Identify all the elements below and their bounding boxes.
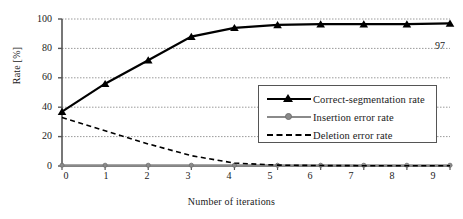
y-tick-100: 100 [22,14,52,24]
legend-item-correct-segmentation-rate: Correct-segmentation rate [259,90,436,108]
x-tick-6: 6 [300,170,320,181]
y-tick-20: 20 [22,131,52,141]
chart-figure: Rate [%] 100 80 60 40 20 0 0 1 2 3 4 5 6… [0,0,463,219]
x-tick-8: 8 [382,170,402,181]
x-tick-7: 7 [341,170,361,181]
legend-item-deletion-error-rate: Deletion error rate [259,126,436,144]
legend-key-dashed-line-icon [265,128,313,142]
y-tick-80: 80 [22,43,52,53]
legend-key-line-circle-icon [265,110,313,124]
legend-label: Correct-segmentation rate [313,94,425,105]
chart-legend: Correct-segmentation rate Insertion erro… [258,85,437,143]
x-tick-4: 4 [219,170,239,181]
legend-key-line-triangle-icon [265,92,313,106]
x-tick-5: 5 [260,170,280,181]
x-tick-0: 0 [56,170,76,181]
x-tick-2: 2 [137,170,157,181]
x-tick-3: 3 [178,170,198,181]
legend-label: Insertion error rate [313,112,394,123]
legend-label: Deletion error rate [313,130,392,141]
legend-item-insertion-error-rate: Insertion error rate [259,108,436,126]
x-axis-label: Number of iterations [0,196,463,207]
x-tick-9: 9 [423,170,443,181]
y-tick-40: 40 [22,102,52,112]
x-tick-1: 1 [96,170,116,181]
y-tick-60: 60 [22,72,52,82]
y-tick-0: 0 [22,161,52,171]
y-axis-tick-labels: 100 80 60 40 20 0 [18,0,52,219]
annotation-97: 97 [435,40,445,51]
